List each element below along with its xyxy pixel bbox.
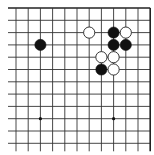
black-stone[interactable] xyxy=(35,39,46,50)
white-stone[interactable] xyxy=(120,27,131,38)
black-stone[interactable] xyxy=(96,64,107,75)
go-board[interactable] xyxy=(0,0,154,155)
white-stone[interactable] xyxy=(84,27,95,38)
white-stone[interactable] xyxy=(96,52,107,63)
white-stone[interactable] xyxy=(108,52,119,63)
star-point xyxy=(112,117,115,120)
stones-layer xyxy=(35,27,132,75)
white-stone[interactable] xyxy=(108,64,119,75)
black-stone[interactable] xyxy=(108,39,119,50)
star-point xyxy=(39,117,42,120)
black-stone[interactable] xyxy=(120,39,131,50)
black-stone[interactable] xyxy=(108,27,119,38)
